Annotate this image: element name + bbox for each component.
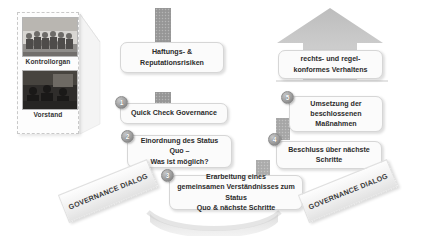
actor-card-kontrollorgan: Kontrollorgan — [22, 17, 74, 66]
step-box-3[interactable]: Erarbeitung eines gemeinsamen Verständni… — [169, 175, 303, 210]
step-3-line-3: Quo & nächste Schritte — [174, 203, 298, 213]
step-1-line-1: Quick Check Governance — [131, 108, 217, 118]
step-2-line-3: Was ist möglich? — [141, 157, 219, 167]
step-box-5[interactable]: Umsetzung der beschlossenen Maßnahmen — [289, 96, 383, 132]
step-badge-3: 3 — [161, 169, 174, 182]
kontrollorgan-photo — [22, 17, 78, 57]
step-5-line-2: beschlossenen — [310, 109, 361, 119]
step-4-line-1: Beschluss über nächste — [288, 145, 370, 155]
step-badge-5: 5 — [281, 91, 294, 104]
step-4-line-2: Schritte — [288, 155, 370, 165]
step-box-4[interactable]: Beschluss über nächste Schritte — [276, 141, 382, 169]
step-badge-4: 4 — [268, 133, 281, 146]
step-3-line-1: Erarbeitung eines — [174, 172, 298, 182]
actors-panel: Kontrollorgan Vorstand — [17, 12, 79, 134]
step-2-line-1: Einordnung des Status — [141, 136, 219, 146]
step-badge-2: 2 — [121, 130, 134, 143]
goal-right-line-2: konformes Verhaltens — [293, 65, 367, 75]
diagram-canvas: Kontrollorgan Vorstand — [0, 0, 428, 236]
goal-box-left: Haftungs- & Reputationsrisiken — [120, 42, 224, 73]
goal-right-line-1: rechts- und regel- — [293, 54, 367, 64]
arrow-baseline — [276, 80, 388, 82]
step-2-line-2: Quo – — [141, 146, 219, 156]
actor-card-vorstand: Vorstand — [22, 70, 74, 119]
actor-label-vorstand: Vorstand — [22, 112, 74, 119]
panel-fold-wedge — [80, 14, 100, 134]
ribbon-right-line-2: DIALOG — [359, 171, 389, 190]
step-5-line-3: Maßnahmen — [310, 119, 361, 129]
goal-box-right: rechts- und regel- konformes Verhaltens — [278, 50, 383, 79]
step-badge-1: 1 — [115, 96, 128, 109]
step-5-line-1: Umsetzung der — [310, 99, 361, 109]
step-box-1[interactable]: Quick Check Governance — [120, 103, 228, 124]
ribbon-left-line-2: DIALOG — [119, 171, 149, 190]
band-bottom-arch — [148, 212, 280, 236]
step-3-line-2: gemeinsamen Verständnisses zum Status — [174, 182, 298, 203]
vorstand-photo — [22, 70, 78, 110]
goal-left-line-1: Haftungs- & — [140, 47, 204, 57]
actor-label-kontrollorgan: Kontrollorgan — [22, 59, 74, 66]
goal-left-line-2: Reputationsrisiken — [140, 58, 204, 68]
